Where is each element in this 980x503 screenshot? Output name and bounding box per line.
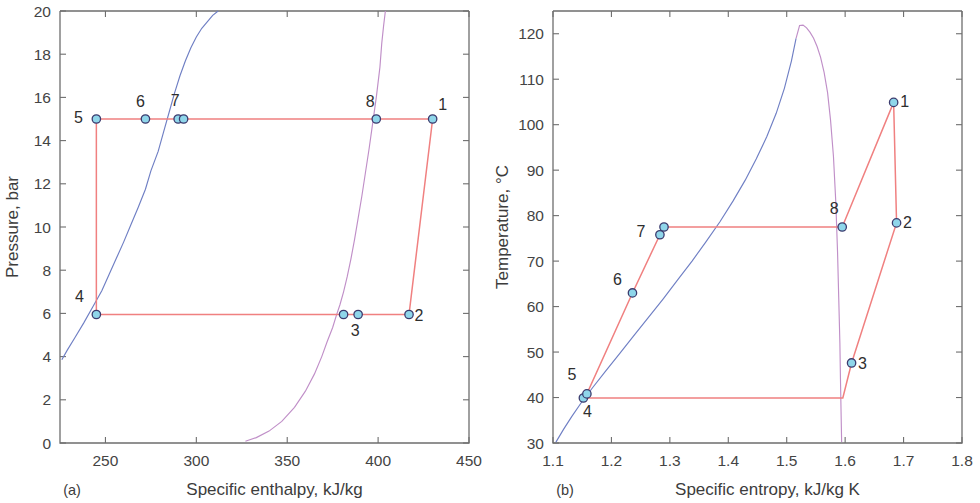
x-tick-label: 350 [274,452,300,469]
state-point-label: 7 [171,92,180,109]
state-point-marker [892,219,900,227]
state-point-marker [141,115,149,123]
state-point-marker [92,115,100,123]
x-tick-label: 1.4 [718,452,740,469]
panel-tag: (a) [63,482,81,498]
state-point-marker [889,98,897,106]
x-tick-label: 400 [365,452,391,469]
y-tick-label: 10 [34,219,52,236]
state-point-marker [372,115,380,123]
x-tick-label: 1.1 [542,452,564,469]
state-point-marker [628,289,636,297]
state-point-label: 6 [613,271,622,288]
x-tick-label: 1.7 [893,452,915,469]
y-tick-label: 14 [34,132,52,149]
saturated-vapor-line [245,11,385,441]
plot-area: 2503003504004500246810121416182012345678 [34,3,483,470]
state-point-label: 2 [415,307,424,324]
state-point-label: 7 [636,223,645,240]
x-axis-title: Specific enthalpy, kJ/kg [186,480,362,499]
y-tick-label: 2 [42,391,51,408]
state-point-label: 5 [74,109,83,126]
state-point-marker [354,310,362,318]
state-point-label: 2 [903,214,912,231]
y-tick-label: 20 [34,3,52,20]
state-point-marker [583,390,591,398]
x-tick-label: 1.6 [834,452,856,469]
y-axis-title: Temperature, °C [493,165,512,289]
y-tick-label: 80 [527,207,545,224]
plot-area: 1.11.21.31.41.51.61.71.83040506070809010… [518,11,973,469]
y-tick-label: 30 [527,435,545,452]
state-point-marker [339,310,347,318]
state-point-label: 3 [351,322,360,339]
state-point-label: 8 [366,93,375,110]
y-tick-label: 40 [527,389,545,406]
saturated-liquid-line [62,11,218,360]
y-tick-label: 120 [518,25,544,42]
figure-container: 2503003504004500246810121416182012345678… [0,0,980,503]
y-tick-label: 0 [42,435,51,452]
state-point-label: 8 [830,200,839,217]
y-tick-label: 90 [527,162,545,179]
state-point-label: 3 [858,355,867,372]
x-tick-label: 1.5 [776,452,798,469]
state-point-label: 4 [75,288,84,305]
x-axis-title: Specific entropy, kJ/kg K [675,480,861,499]
state-point-marker [656,231,664,239]
cycle-path [96,119,432,314]
x-tick-label: 300 [183,452,209,469]
axis-box [60,11,469,443]
y-axis-title: Pressure, bar [3,176,22,278]
state-point-marker [660,223,668,231]
x-tick-label: 1.8 [951,452,973,469]
x-tick-label: 450 [456,452,482,469]
chart-panel-b: 1.11.21.31.41.51.61.71.83040506070809010… [490,0,980,503]
state-point-marker [838,223,846,231]
cycle-path [583,102,896,398]
y-tick-label: 60 [527,298,545,315]
state-point-marker [428,115,436,123]
x-tick-label: 1.3 [659,452,681,469]
state-point-label: 5 [567,366,576,383]
saturated-vapor-line [796,25,842,442]
y-tick-label: 4 [42,348,51,365]
y-tick-label: 8 [42,262,51,279]
y-tick-label: 110 [519,71,544,88]
state-point-label: 1 [438,96,447,113]
state-point-marker [405,310,413,318]
state-point-label: 6 [136,93,145,110]
state-point-label: 4 [583,403,592,420]
state-point-label: 1 [900,93,909,110]
y-tick-label: 50 [527,344,545,361]
state-point-marker [92,310,100,318]
x-tick-label: 250 [93,452,119,469]
temperature-entropy-chart: 1.11.21.31.41.51.61.71.83040506070809010… [490,0,980,503]
panel-tag: (b) [556,482,574,498]
pressure-enthalpy-chart: 2503003504004500246810121416182012345678… [0,0,490,503]
state-point-marker [847,359,855,367]
y-tick-label: 70 [527,253,545,270]
y-tick-label: 18 [34,46,51,63]
y-tick-label: 100 [518,116,544,133]
state-point-marker [179,115,187,123]
x-tick-label: 1.2 [601,452,623,469]
y-tick-label: 6 [42,305,51,322]
y-tick-label: 16 [34,89,51,106]
y-tick-label: 12 [34,175,51,192]
chart-panel-a: 2503003504004500246810121416182012345678… [0,0,490,503]
